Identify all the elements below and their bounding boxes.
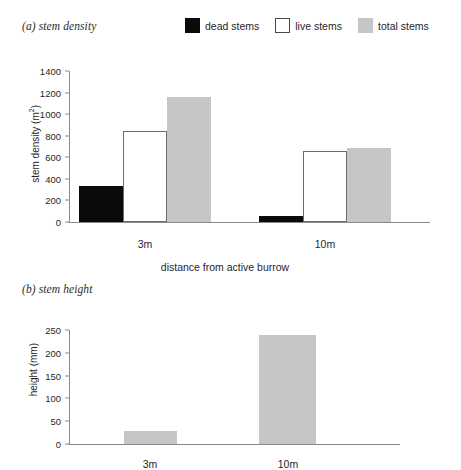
y-tick-600: 600 [45, 152, 69, 163]
chart-legend: dead stems live stems total stems [185, 18, 429, 33]
y-tick-0: 0 [56, 439, 69, 450]
legend-swatch-total-stems [358, 18, 373, 33]
y-tick-label: 1200 [40, 87, 65, 98]
bar-3m-stem-height [124, 431, 177, 444]
y-tick-mark [65, 375, 69, 376]
y-tick-200: 200 [45, 195, 69, 206]
legend-item-dead-stems: dead stems [185, 18, 259, 33]
y-tick-mark [65, 178, 69, 179]
y-tick-label: 100 [45, 393, 65, 404]
x-tick-label-3m: 3m [138, 238, 153, 250]
bar-3m-live-stems [123, 131, 167, 222]
panel-a-title: (a) stem density [22, 20, 96, 32]
y-tick-400: 400 [45, 173, 69, 184]
y-tick-label: 0 [56, 439, 65, 450]
y-tick-mark [65, 421, 69, 422]
legend-item-live-stems: live stems [275, 18, 342, 33]
y-tick-label: 600 [45, 152, 65, 163]
y-tick-mark [65, 114, 69, 115]
y-tick-label: 1000 [40, 109, 65, 120]
x-axis-title-distance: distance from active burrow [161, 261, 289, 273]
x-axis-line [69, 222, 430, 223]
x-tick-label-10m: 10m [278, 458, 298, 470]
y-tick-label: 200 [45, 195, 65, 206]
y-tick-mark [65, 135, 69, 136]
panel-b-title: (b) stem height [22, 283, 92, 295]
y-axis-line [69, 330, 70, 444]
y-tick-800: 800 [45, 130, 69, 141]
y-tick-label: 50 [50, 416, 65, 427]
y-tick-mark [65, 92, 69, 93]
y-axis-label-height: height (mm) [28, 343, 39, 396]
plot-area-stem-height: 0 50 100 150 200 250 [69, 330, 400, 444]
y-tick-label: 400 [45, 173, 65, 184]
y-tick-200: 200 [45, 347, 69, 358]
y-tick-mark [65, 71, 69, 72]
y-tick-1000: 1000 [40, 109, 69, 120]
plot-area-stem-density: 0 200 400 600 800 1000 1200 1400 [69, 71, 430, 222]
y-tick-label: 200 [45, 347, 65, 358]
x-axis-line [69, 444, 400, 445]
y-tick-label: 0 [56, 217, 65, 228]
y-tick-mark [65, 157, 69, 158]
y-tick-mark [65, 444, 69, 445]
chart-stem-density: stem density (m2) 0 200 400 600 800 1000 [0, 60, 461, 275]
y-tick-100: 100 [45, 393, 69, 404]
y-tick-150: 150 [45, 370, 69, 381]
bar-10m-live-stems [303, 151, 347, 222]
legend-label-live-stems: live stems [295, 20, 342, 32]
bar-10m-stem-height [259, 335, 316, 444]
y-tick-0: 0 [56, 217, 69, 228]
x-tick-label-3m: 3m [143, 458, 158, 470]
y-tick-mark [65, 200, 69, 201]
bar-10m-dead-stems [259, 216, 303, 222]
y-axis-line [69, 71, 70, 222]
y-tick-mark [65, 352, 69, 353]
bar-3m-total-stems [167, 97, 211, 222]
y-axis-label-superscript: 2 [28, 108, 35, 112]
y-tick-1200: 1200 [40, 87, 69, 98]
bar-10m-total-stems [347, 148, 391, 222]
y-tick-label: 1400 [40, 66, 65, 77]
chart-stem-height: height (mm) 0 50 100 150 200 250 [0, 318, 461, 470]
legend-swatch-dead-stems [185, 18, 200, 33]
y-tick-mark [65, 222, 69, 223]
y-tick-250: 250 [45, 325, 69, 336]
legend-label-dead-stems: dead stems [205, 20, 259, 32]
legend-label-total-stems: total stems [378, 20, 429, 32]
y-axis-label-text: stem density (m [30, 112, 41, 183]
y-tick-50: 50 [50, 416, 69, 427]
y-tick-label: 800 [45, 130, 65, 141]
legend-item-total-stems: total stems [358, 18, 429, 33]
y-tick-label: 250 [45, 325, 65, 336]
y-tick-label: 150 [45, 370, 65, 381]
x-tick-label-10m: 10m [315, 238, 335, 250]
y-tick-mark [65, 330, 69, 331]
y-tick-mark [65, 398, 69, 399]
y-tick-1400: 1400 [40, 66, 69, 77]
bar-3m-dead-stems [79, 186, 123, 222]
legend-swatch-live-stems [275, 18, 290, 33]
